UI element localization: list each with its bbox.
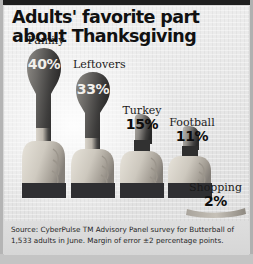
bar-label-leftovers: Leftovers: [73, 59, 125, 71]
frame-top-border: [0, 0, 253, 5]
title-line-1: Adults' favorite part: [12, 8, 227, 27]
infographic-card: Adults' favorite part about Thanksgiving: [4, 6, 249, 255]
frame-bottom-border: [0, 254, 253, 264]
value-label-family: 40%: [22, 57, 66, 72]
source-note: Source: CyberPulse TM Advisory Panel sur…: [4, 221, 249, 255]
source-line-2: 1,533 adults in June. Margin of error ±2…: [11, 236, 242, 247]
infographic-poster: Adults' favorite part about Thanksgiving: [0, 0, 253, 264]
bar-base-leftovers: [71, 183, 115, 198]
value-label-football: 11%: [162, 129, 222, 144]
value-label-leftovers: 33%: [71, 82, 115, 97]
title-line-2: about Thanksgiving: [12, 27, 227, 46]
value-wrap-family: 40%: [22, 57, 66, 72]
source-line-1: Source: CyberPulse TM Advisory Panel sur…: [11, 225, 242, 236]
bar-base-turkey: [120, 183, 164, 198]
bar-label-shopping: Shopping 2%: [189, 182, 242, 209]
frame-left-border: [0, 0, 3, 264]
value-label-shopping: 2%: [189, 194, 242, 209]
category-label-leftovers: Leftovers: [73, 59, 125, 71]
frame-right-border: [250, 0, 253, 264]
bar-base-family: [22, 183, 66, 198]
bar-label-football: Football 11%: [162, 117, 222, 144]
drumstick-shape-shopping: [185, 207, 247, 221]
value-wrap-leftovers: 33%: [71, 82, 115, 97]
page-title: Adults' favorite part about Thanksgiving: [12, 8, 227, 46]
